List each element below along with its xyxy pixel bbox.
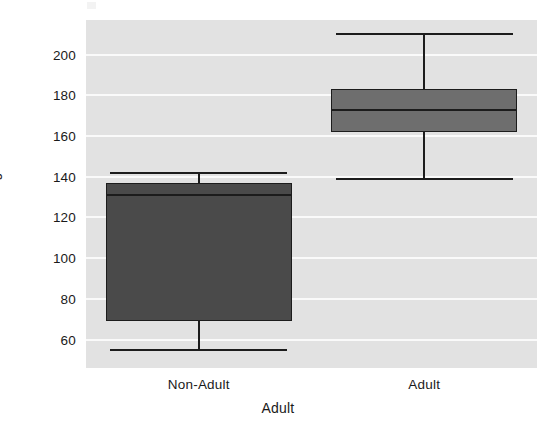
y-tick-label-60: 60 (61, 332, 76, 347)
lower-whisker-cap (110, 349, 287, 351)
x-axis-title: Adult (262, 400, 295, 416)
upper-whisker-stem (423, 34, 425, 89)
upper-whisker-stem (198, 173, 200, 183)
plot-panel (86, 20, 537, 368)
upper-whisker-cap (336, 33, 513, 35)
box-iqr-rect (331, 89, 517, 132)
gridline-160 (86, 135, 537, 137)
upper-whisker-cap (110, 172, 287, 174)
lower-whisker-stem (198, 321, 200, 349)
y-axis-tick-labels: 6080100120140160180200 (0, 0, 86, 432)
y-tick-label-200: 200 (53, 47, 76, 62)
gridline-60 (86, 339, 537, 341)
x-tick-label-adult: Adult (408, 377, 440, 392)
y-tick-label-120: 120 (53, 210, 76, 225)
x-tick-label-non-adult: Non-Adult (168, 377, 230, 392)
median-line (106, 194, 292, 196)
scan-artifact (87, 2, 96, 9)
box-iqr-rect (106, 183, 292, 321)
y-tick-label-100: 100 (53, 251, 76, 266)
boxplot-figure: Height 6080100120140160180200 Non-AdultA… (0, 0, 557, 432)
y-tick-label-140: 140 (53, 169, 76, 184)
y-tick-label-80: 80 (61, 291, 76, 306)
lower-whisker-cap (336, 178, 513, 180)
lower-whisker-stem (423, 132, 425, 179)
gridline-200 (86, 54, 537, 56)
y-tick-label-180: 180 (53, 88, 76, 103)
y-tick-label-160: 160 (53, 129, 76, 144)
median-line (331, 109, 517, 111)
